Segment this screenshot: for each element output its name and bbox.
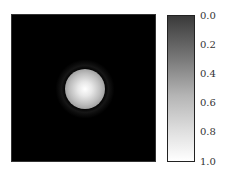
colorbar-tick-5: 1.0 bbox=[200, 157, 216, 167]
colorbar-tick-4: 0.8 bbox=[200, 127, 216, 137]
colorbar-tick-1: 0.2 bbox=[200, 40, 216, 50]
colorbar-tick-3: 0.6 bbox=[200, 98, 216, 108]
intensity-image bbox=[11, 14, 156, 162]
colorbar-tick-0: 0.0 bbox=[200, 11, 216, 21]
colorbar bbox=[167, 15, 195, 162]
colorbar-tick-2: 0.4 bbox=[200, 69, 216, 79]
central-bright-disk bbox=[65, 69, 105, 109]
